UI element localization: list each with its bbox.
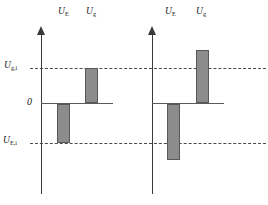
ue-symbol: U	[165, 6, 172, 16]
energy-bar-diagram-figure: UE Ug Ug,i 0 UE,i UE Ug	[0, 0, 268, 205]
ue-subscript: E	[172, 10, 176, 17]
left-panel: UE Ug Ug,i 0 UE,i	[0, 0, 134, 205]
right-panel-label-ue: UE	[165, 7, 176, 17]
ue-subscript: E	[65, 10, 69, 17]
right-bar-ug	[196, 50, 209, 103]
right-vertical-axis	[152, 34, 153, 194]
left-zero-baseline	[41, 103, 113, 104]
uei-subscript: E,i	[10, 139, 17, 146]
left-label-zero: 0	[27, 97, 32, 107]
right-panel-label-ug: Ug	[196, 7, 206, 17]
left-label-ue-i: UE,i	[3, 136, 17, 146]
uei-symbol: U	[3, 135, 10, 145]
left-vertical-axis	[41, 34, 42, 194]
ug-subscript: g	[93, 10, 96, 17]
ugi-symbol: U	[4, 60, 11, 70]
left-panel-label-ug: Ug	[86, 7, 96, 17]
left-panel-label-ue: UE	[58, 7, 69, 17]
ue-symbol: U	[58, 6, 65, 16]
ug-symbol: U	[196, 6, 203, 16]
ugi-subscript: g,i	[11, 64, 17, 71]
left-bar-ug	[85, 68, 98, 103]
ug-symbol: U	[86, 6, 93, 16]
ug-subscript: g	[203, 10, 206, 17]
right-zero-baseline	[152, 103, 224, 104]
right-panel: UE Ug	[134, 0, 268, 205]
left-label-ug-i: Ug,i	[4, 61, 17, 71]
right-bar-ue	[167, 104, 180, 160]
left-bar-ue	[57, 104, 70, 143]
